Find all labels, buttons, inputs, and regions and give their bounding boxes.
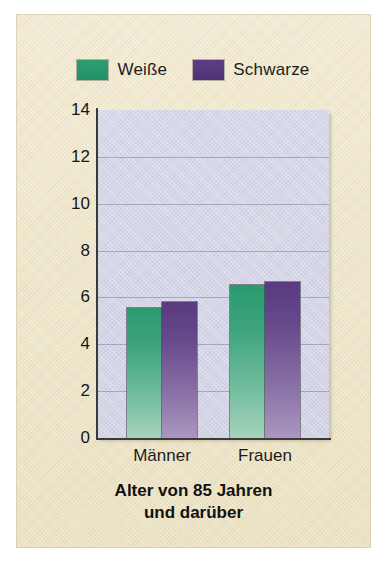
x-axis-line xyxy=(96,438,331,440)
bar-maenner-weisse xyxy=(127,308,162,438)
y-tick-12: 12 xyxy=(60,147,90,167)
y-tick-10: 10 xyxy=(60,194,90,214)
bars-layer xyxy=(97,110,329,438)
y-tick-6: 6 xyxy=(60,287,90,307)
bar-maenner-schwarze xyxy=(162,302,197,438)
y-tick-8: 8 xyxy=(60,241,90,261)
bar-frauen-weisse xyxy=(230,285,265,439)
x-axis-title-line2: und darüber xyxy=(16,502,371,524)
plot-wrapper: Durchschnittliche Lebenserwartung in Jah… xyxy=(16,14,371,548)
x-axis-title: Alter von 85 Jahren und darüber xyxy=(16,480,371,524)
x-category-frauen: Frauen xyxy=(238,446,292,466)
y-tick-0: 0 xyxy=(60,428,90,448)
bar-frauen-schwarze xyxy=(265,282,300,438)
y-axis-line xyxy=(96,108,98,440)
x-axis-title-line1: Alter von 85 Jahren xyxy=(16,480,371,502)
y-tick-2: 2 xyxy=(60,381,90,401)
x-category-maenner: Männer xyxy=(133,446,191,466)
y-tick-4: 4 xyxy=(60,334,90,354)
chart-figure: Weiße Schwarze Durchschnittliche Lebense… xyxy=(0,0,385,562)
figure-content: Weiße Schwarze Durchschnittliche Lebense… xyxy=(16,14,371,548)
plot-area xyxy=(97,110,329,438)
y-tick-14: 14 xyxy=(60,100,90,120)
y-axis-tick-labels: 0 2 4 6 8 10 12 14 xyxy=(56,110,90,438)
